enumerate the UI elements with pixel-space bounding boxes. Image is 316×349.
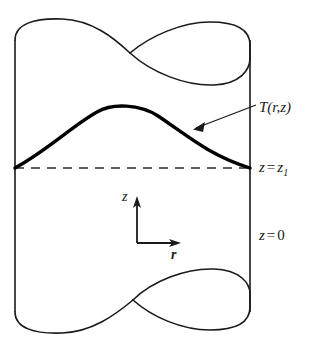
- z0-label-equals: =: [265, 227, 277, 243]
- top-cap-right-lower-arc: [130, 53, 250, 85]
- figure-container: T(r,z) z=z1 z=0 z r: [0, 0, 316, 349]
- callout-arrow-shaft: [196, 105, 256, 128]
- cylinder-top-cap-figure-eight: [15, 19, 250, 85]
- bottom-cap-left-lower-arc: [15, 300, 133, 333]
- cylinder-bottom-cap-figure-eight: [15, 269, 250, 333]
- temperature-function-label: T(r,z): [259, 100, 291, 115]
- z0-label-var: z: [259, 227, 265, 243]
- z-axis-label: z: [122, 190, 127, 204]
- bottom-cap-right-lower-arc: [133, 300, 250, 330]
- z0-plane-label: z=0: [259, 228, 285, 243]
- r-axis-label: r: [171, 248, 176, 262]
- z1-label-subscript: 1: [283, 167, 288, 178]
- rz-coordinate-axes: [133, 196, 181, 247]
- top-cap-left-upper-arc: [15, 19, 130, 53]
- temperature-profile-curve: [15, 106, 250, 168]
- z1-plane-label: z=z1: [259, 160, 288, 178]
- bottom-cap-right-upper-arc: [133, 269, 250, 300]
- temperature-callout-arrow: [193, 105, 256, 132]
- callout-arrow-head: [193, 122, 205, 132]
- cylinder-body: [15, 40, 250, 312]
- z0-label-value: 0: [277, 227, 285, 243]
- z1-label-equals: =: [265, 159, 277, 175]
- z1-label-var: z: [259, 159, 265, 175]
- top-cap-right-upper-arc: [130, 22, 250, 53]
